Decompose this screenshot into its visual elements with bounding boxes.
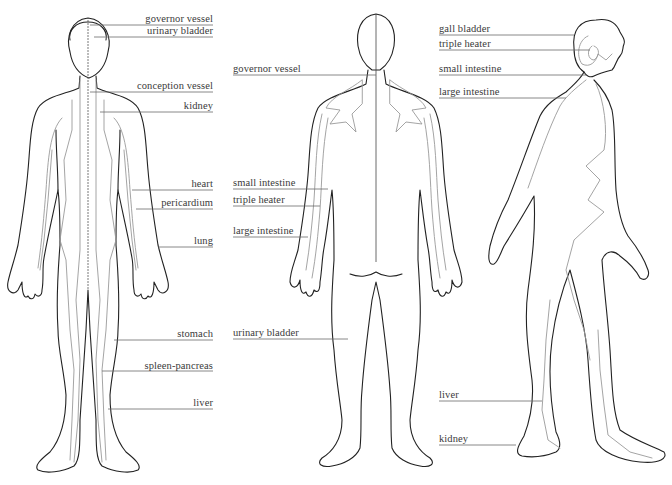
label-front-governor-vessel: governor vessel — [145, 13, 213, 25]
label-back-governor-vessel: governor vessel — [233, 63, 301, 75]
label-front-stomach: stomach — [177, 328, 213, 340]
back-figure — [290, 14, 462, 467]
label-back-large-intestine: large intestine — [233, 225, 294, 237]
label-front-conception-vessel: conception vessel — [137, 80, 213, 92]
label-side-gall-bladder: gall bladder — [439, 23, 490, 35]
label-side-small-intestine: small intestine — [439, 63, 501, 75]
label-back-urinary-bladder: urinary bladder — [233, 327, 299, 339]
label-back-triple-heater: triple heater — [233, 194, 285, 206]
label-front-kidney: kidney — [184, 100, 213, 112]
label-side-kidney: kidney — [439, 433, 468, 445]
label-side-liver: liver — [439, 389, 459, 401]
label-front-urinary-bladder: urinary bladder — [147, 25, 213, 37]
label-front-liver: liver — [193, 397, 213, 409]
label-front-lung: lung — [194, 235, 213, 247]
label-front-heart: heart — [192, 178, 214, 190]
side-figure — [489, 20, 665, 463]
label-front-spleen-pancreas: spleen-pancreas — [144, 360, 213, 372]
meridian-diagram: governor vessel urinary bladder concepti… — [0, 0, 672, 485]
label-side-triple-heater: triple heater — [439, 38, 491, 50]
body-figures — [0, 0, 672, 485]
label-back-small-intestine: small intestine — [233, 177, 295, 189]
label-side-large-intestine: large intestine — [439, 86, 500, 98]
label-front-pericardium: pericardium — [161, 197, 213, 209]
